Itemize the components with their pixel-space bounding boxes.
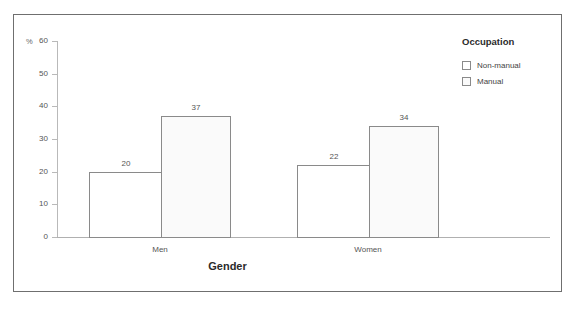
bar-women-nonmanual[interactable] xyxy=(297,165,370,238)
bar-value-women-nonmanual: 22 xyxy=(308,153,360,161)
bar-value-men-nonmanual: 20 xyxy=(100,160,152,168)
y-tick-label-20: 20 xyxy=(14,168,48,176)
legend-item-manual[interactable]: Manual xyxy=(462,77,557,86)
x-axis-title: Gender xyxy=(0,260,455,272)
x-category-label-men: Men xyxy=(120,245,200,254)
y-tick-label-50: 50 xyxy=(14,70,48,78)
y-tick-label-30: 30 xyxy=(14,135,48,143)
bar-value-women-manual: 34 xyxy=(378,114,430,122)
bar-value-men-manual: 37 xyxy=(170,104,222,112)
y-tick-label-10: 10 xyxy=(14,200,48,208)
bar-men-manual[interactable] xyxy=(161,116,231,238)
legend-item-non-manual[interactable]: Non-manual xyxy=(462,61,557,70)
y-tick-40 xyxy=(52,106,57,107)
y-tick-10 xyxy=(52,204,57,205)
y-tick-50 xyxy=(52,74,57,75)
x-category-label-women: Women xyxy=(328,245,408,254)
y-tick-label-40: 40 xyxy=(14,102,48,110)
y-tick-30 xyxy=(52,139,57,140)
legend-swatch-manual-icon xyxy=(462,77,471,86)
legend: Occupation Non-manual Manual xyxy=(462,36,557,93)
legend-title: Occupation xyxy=(462,36,557,47)
legend-swatch-non-manual-icon xyxy=(462,61,471,70)
y-tick-label-0: 0 xyxy=(14,233,48,241)
y-tick-60 xyxy=(52,41,57,42)
legend-label-manual: Manual xyxy=(477,77,503,86)
y-tick-0 xyxy=(52,237,57,238)
y-axis-line xyxy=(57,41,58,237)
figure: % 60 50 40 30 20 10 0 20 37 22 34 Men Wo… xyxy=(0,0,575,309)
y-tick-label-60: 60 xyxy=(14,37,48,45)
y-tick-20 xyxy=(52,172,57,173)
plot-area: % 60 50 40 30 20 10 0 20 37 22 34 Men Wo… xyxy=(0,0,575,309)
legend-label-non-manual: Non-manual xyxy=(477,61,521,70)
bar-women-manual[interactable] xyxy=(369,126,439,238)
bar-men-nonmanual[interactable] xyxy=(89,172,162,238)
